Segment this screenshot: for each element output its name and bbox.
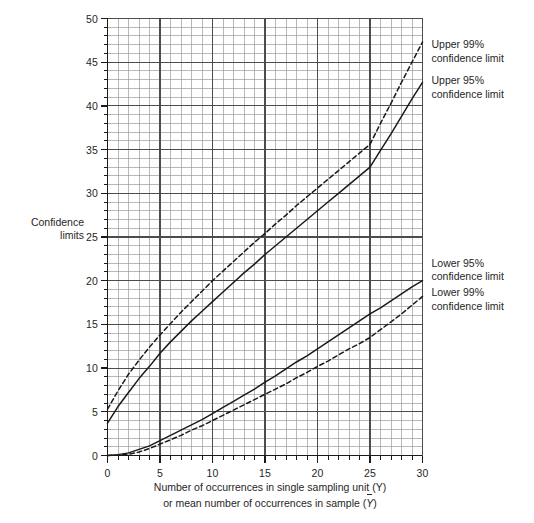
y-tick-label-5: 5 xyxy=(60,406,98,418)
annotation-upper-99: Upper 99% confidence limit xyxy=(432,38,504,65)
x-axis-title-line1: Number of occurrences in single sampling… xyxy=(60,479,480,495)
y-tick-label-45: 45 xyxy=(60,56,98,68)
y-tick-label-40: 40 xyxy=(60,100,98,112)
annotation-lower-99-line1: Lower 99% xyxy=(432,286,504,300)
y-bar-symbol: Y xyxy=(366,495,373,511)
annotation-lower-95-line1: Lower 95% xyxy=(432,257,504,271)
y-tick-label-50: 50 xyxy=(60,13,98,25)
x-tick-label-30: 30 xyxy=(416,467,428,479)
y-tick-label-30: 30 xyxy=(60,187,98,199)
annotation-lower-95-line2: confidence limit xyxy=(432,270,504,284)
x-tick-label-15: 15 xyxy=(259,467,271,479)
x-axis-title: Number of occurrences in single sampling… xyxy=(60,479,480,511)
x-tick-label-20: 20 xyxy=(311,467,323,479)
x-tick-label-25: 25 xyxy=(364,467,376,479)
annotation-lower-99-line2: confidence limit xyxy=(432,300,504,314)
annotation-lower-95: Lower 95% confidence limit xyxy=(432,257,504,284)
annotation-lower-99: Lower 99% confidence limit xyxy=(432,286,504,313)
y-tick-label-10: 10 xyxy=(60,362,98,374)
y-tick-label-20: 20 xyxy=(60,275,98,287)
y-tick-label-0: 0 xyxy=(60,450,98,462)
annotation-upper-95-line1: Upper 95% xyxy=(432,74,504,88)
annotation-upper-95-line2: confidence limit xyxy=(432,88,504,102)
confidence-limits-chart: 05101520253035404550 051015202530 Confid… xyxy=(0,0,534,523)
y-axis-title-line1: Confidence xyxy=(10,216,84,229)
x-tick-label-10: 10 xyxy=(206,467,218,479)
x-axis-title-line2: or mean number of occurrences in sample … xyxy=(60,495,480,511)
x-axis-title-line2-prefix: or mean number of occurrences in sample … xyxy=(163,497,366,509)
annotation-upper-95: Upper 95% confidence limit xyxy=(432,74,504,101)
y-axis-title: Confidence limits xyxy=(10,216,84,242)
y-tick-label-35: 35 xyxy=(60,144,98,156)
x-tick-label-5: 5 xyxy=(157,467,163,479)
annotation-upper-99-line2: confidence limit xyxy=(432,52,504,66)
y-tick-label-15: 15 xyxy=(60,318,98,330)
annotation-upper-99-line1: Upper 99% xyxy=(432,38,504,52)
x-tick-label-0: 0 xyxy=(104,467,110,479)
grid-major-lines xyxy=(108,19,423,456)
x-axis-title-line2-suffix: ) xyxy=(373,497,377,509)
y-axis-title-line2: limits xyxy=(10,229,84,242)
